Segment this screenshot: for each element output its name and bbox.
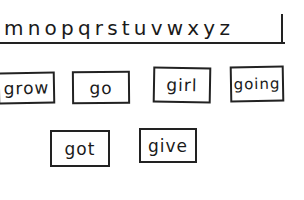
- word-card-grow[interactable]: grow: [0, 72, 55, 105]
- word-card-going[interactable]: going: [230, 66, 285, 103]
- word-card-got[interactable]: got: [50, 130, 110, 167]
- word-card-give[interactable]: give: [139, 128, 197, 163]
- word-card-girl[interactable]: girl: [153, 66, 212, 103]
- alphabet-strip: mnopqrstuvwxyz: [0, 10, 285, 44]
- alphabet-strip-end-line: [281, 14, 283, 42]
- alphabet-letters: mnopqrstuvwxyz: [4, 16, 234, 40]
- word-card-go[interactable]: go: [72, 71, 130, 105]
